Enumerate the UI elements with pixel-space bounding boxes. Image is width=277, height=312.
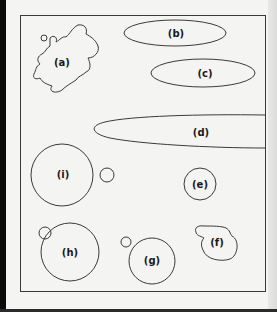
shape-i-satellite	[100, 168, 114, 182]
label-c: (c)	[197, 68, 212, 79]
label-i: (i)	[57, 169, 70, 180]
label-a: (a)	[54, 57, 70, 68]
label-d: (d)	[193, 127, 209, 138]
shapes-diagram: (a) (b) (c) (d) (e) (f) (g) (h) (i)	[0, 0, 277, 312]
label-e: (e)	[192, 179, 208, 190]
label-b: (b)	[168, 28, 184, 39]
label-h: (h)	[62, 247, 78, 258]
shape-g-satellite	[121, 237, 131, 247]
label-f: (f)	[210, 237, 224, 248]
shape-a-fragment	[41, 35, 47, 41]
shape-d-ellipse	[94, 115, 265, 148]
label-g: (g)	[144, 255, 160, 266]
